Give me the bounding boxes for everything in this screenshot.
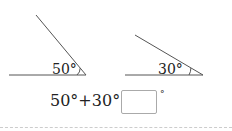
angle-50-label: 50° (52, 62, 77, 76)
divider (0, 127, 232, 128)
degree-unit: ° (160, 89, 165, 99)
answer-input-box[interactable] (121, 90, 157, 114)
angle-30-label: 30° (158, 62, 183, 76)
angle-diagrams (0, 0, 232, 90)
